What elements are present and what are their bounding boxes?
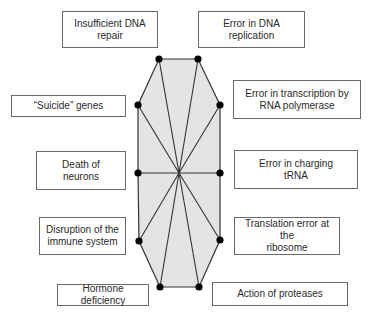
label-text: Action of proteases (237, 288, 323, 300)
vertex-node (194, 55, 201, 62)
label-text: Error in charging tRNA (259, 158, 333, 182)
label-box-disruption-immune-system: Disruption of the immune system (39, 217, 126, 255)
label-text: Hormone deficiency (61, 283, 145, 307)
vertex-node (195, 283, 202, 290)
label-box-error-charging-trna: Error in charging tRNA (234, 150, 358, 189)
vertex-node (216, 169, 223, 176)
vertex-node (216, 101, 223, 108)
label-box-translation-error-ribosome: Translation error at the ribosome (234, 217, 340, 255)
label-text: Error in transcription by RNA polymerase (245, 88, 348, 112)
vertex-node (134, 169, 141, 176)
label-text: Translation error at the ribosome (238, 218, 336, 254)
label-box-error-transcription: Error in transcription by RNA polymerase (233, 80, 361, 119)
label-box-death-of-neurons: Death of neurons (36, 151, 126, 190)
label-box-insufficient-dna-repair: Insufficient DNA repair (62, 11, 158, 48)
label-text: Disruption of the immune system (46, 224, 119, 248)
vertex-node (135, 237, 142, 244)
vertex-node (155, 55, 162, 62)
vertex-node (216, 236, 223, 243)
vertex-node (134, 101, 141, 108)
label-box-error-dna-replication: Error in DNA replication (198, 11, 305, 48)
label-text: Error in DNA replication (223, 18, 280, 42)
label-text: Death of neurons (62, 159, 100, 183)
vertex-node (156, 283, 163, 290)
label-text: Insufficient DNA repair (74, 18, 146, 42)
label-box-hormone-deficiency: Hormone deficiency (57, 284, 149, 306)
label-box-suicide-genes: “Suicide” genes (11, 95, 126, 117)
label-box-action-of-proteases: Action of proteases (212, 282, 348, 306)
label-text: “Suicide” genes (34, 100, 103, 112)
